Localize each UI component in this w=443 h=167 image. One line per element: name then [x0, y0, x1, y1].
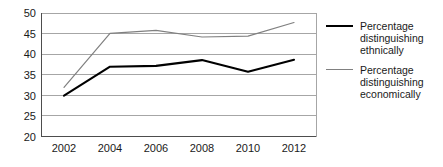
legend-item-label: economically: [360, 88, 443, 100]
plot-area: [41, 13, 317, 137]
legend-item-label: distinguishing: [360, 76, 443, 88]
y-axis-tick-label: 50: [8, 8, 36, 19]
x-axis-tick-label: 2006: [136, 143, 176, 154]
x-axis-tick-label: 2010: [228, 143, 268, 154]
y-axis-tick-label: 20: [8, 132, 36, 143]
legend-swatch-line-icon: [326, 69, 353, 70]
x-axis-tick-label: 2004: [90, 143, 130, 154]
legend-item-label: Percentage: [360, 64, 443, 76]
y-axis-tick-label: 30: [8, 91, 36, 102]
y-axis-tick-label: 25: [8, 111, 36, 122]
legend-item-label: ethnically: [360, 44, 443, 56]
y-axis-tick-label: 40: [8, 49, 36, 60]
x-axis-tick-label: 2002: [44, 143, 84, 154]
series-line-ethnic: [64, 60, 294, 96]
x-axis-tick-label: 2008: [182, 143, 222, 154]
chart-legend: Percentage distinguishing ethnically Per…: [326, 20, 443, 107]
legend-item-label: Percentage: [360, 20, 443, 32]
legend-swatch-line-icon: [326, 25, 353, 27]
y-axis-tick-label: 35: [8, 70, 36, 81]
plot-canvas: [41, 13, 317, 137]
line-chart: 50 45 40 35 30 25 20: [0, 0, 443, 167]
x-axis-tick-label: 2012: [274, 143, 314, 154]
legend-item-economic[interactable]: Percentage distinguishing economically: [326, 64, 443, 101]
series-line-economic: [64, 23, 294, 88]
legend-item-ethnic[interactable]: Percentage distinguishing ethnically: [326, 20, 443, 57]
legend-item-label: distinguishing: [360, 32, 443, 44]
y-axis-tick-label: 45: [8, 29, 36, 40]
